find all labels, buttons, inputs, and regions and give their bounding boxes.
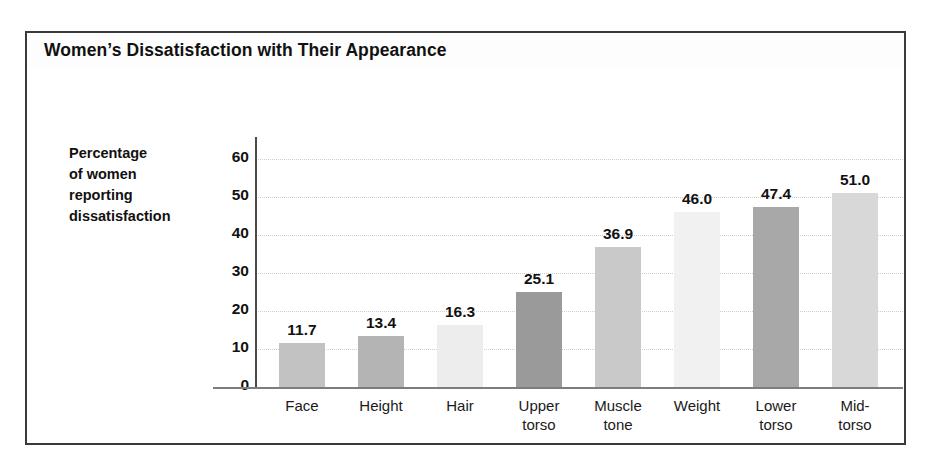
x-axis-category-line: torso (500, 415, 578, 434)
bar-value-label: 36.9 (585, 225, 651, 243)
x-axis-category-line: Upper (500, 396, 578, 415)
page-title: Women’s Dissatisfaction with Their Appea… (44, 40, 447, 61)
bar-group: 25.1 (516, 67, 562, 387)
bar[interactable] (674, 212, 720, 387)
figure-frame: Women’s Dissatisfaction with Their Appea… (25, 31, 906, 445)
bar-group: 13.4 (358, 67, 404, 387)
bar-value-label: 16.3 (427, 303, 493, 321)
bar[interactable] (832, 193, 878, 387)
x-axis-category-line: Face (263, 396, 341, 415)
bar-group: 16.3 (437, 67, 483, 387)
x-axis-category-line: torso (816, 415, 894, 434)
title-band: Women’s Dissatisfaction with Their Appea… (27, 33, 904, 67)
bar-value-label: 11.7 (269, 321, 335, 339)
x-axis-category-label: Height (342, 396, 420, 415)
bar-group: 51.0 (832, 67, 878, 387)
bar-value-label: 51.0 (822, 171, 888, 189)
x-axis-category-label: Mid-torso (816, 396, 894, 434)
x-axis-category-line: Muscle (579, 396, 657, 415)
bar-value-label: 46.0 (664, 190, 730, 208)
chart-page: Women’s Dissatisfaction with Their Appea… (0, 0, 928, 452)
x-axis-category-line: Hair (421, 396, 499, 415)
x-axis-category-label: Lowertorso (737, 396, 815, 434)
x-axis-category-line: Weight (658, 396, 736, 415)
bars-layer: 11.7Face13.4Height16.3Hair25.1Uppertorso… (27, 67, 904, 443)
x-axis-category-label: Muscletone (579, 396, 657, 434)
bar-group: 46.0 (674, 67, 720, 387)
x-axis-category-line: Lower (737, 396, 815, 415)
x-axis-category-label: Weight (658, 396, 736, 415)
bar-value-label: 13.4 (348, 314, 414, 332)
bar-group: 47.4 (753, 67, 799, 387)
bar[interactable] (358, 336, 404, 387)
bar-value-label: 25.1 (506, 270, 572, 288)
plot-region: Percentage of women reporting dissatisfa… (27, 67, 904, 443)
x-axis-category-line: Height (342, 396, 420, 415)
x-axis-category-label: Hair (421, 396, 499, 415)
bar[interactable] (279, 343, 325, 387)
x-axis-category-line: torso (737, 415, 815, 434)
bar[interactable] (437, 325, 483, 387)
x-axis-category-label: Uppertorso (500, 396, 578, 434)
bar[interactable] (516, 292, 562, 387)
bar[interactable] (753, 207, 799, 387)
bar-group: 36.9 (595, 67, 641, 387)
bar[interactable] (595, 247, 641, 387)
bar-group: 11.7 (279, 67, 325, 387)
x-axis-category-label: Face (263, 396, 341, 415)
bar-value-label: 47.4 (743, 185, 809, 203)
x-axis-category-line: Mid- (816, 396, 894, 415)
x-axis-category-line: tone (579, 415, 657, 434)
